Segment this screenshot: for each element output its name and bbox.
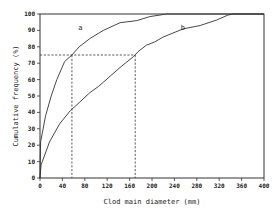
plot-frame: [40, 14, 264, 178]
y-axis-label: Cumulative frequency (%): [12, 45, 20, 146]
y-tick-label: 90: [28, 26, 36, 33]
curve-label-b: b: [181, 24, 185, 32]
y-tick-label: 30: [28, 125, 36, 132]
x-tick-label: 400: [259, 182, 270, 189]
x-tick-label: 320: [214, 182, 225, 189]
x-tick-label: 120: [102, 182, 113, 189]
x-tick-label: 360: [236, 182, 247, 189]
curve-label-a: a: [78, 24, 82, 32]
curve-b: [40, 14, 264, 178]
x-tick-label: 280: [191, 182, 202, 189]
x-axis-label: Clod main diameter (mm): [104, 198, 201, 206]
y-tick-label: 80: [28, 43, 36, 50]
y-tick-label: 40: [28, 108, 36, 115]
x-tick-label: 160: [124, 182, 135, 189]
y-tick-label: 70: [28, 59, 36, 66]
y-tick-label: 60: [28, 76, 36, 83]
x-tick-label: 200: [147, 182, 158, 189]
y-tick-label: 10: [28, 158, 36, 165]
curve-a: [40, 14, 264, 178]
cumulative-frequency-chart: 0102030405060708090100040801201602002402…: [0, 0, 278, 212]
x-tick-label: 40: [59, 182, 67, 189]
x-tick-label: 240: [169, 182, 180, 189]
y-tick-label: 100: [24, 10, 35, 17]
y-tick-label: 50: [28, 92, 36, 99]
x-tick-label: 80: [81, 182, 89, 189]
plot-area: 0102030405060708090100040801201602002402…: [24, 10, 270, 189]
x-tick-label: 0: [38, 182, 42, 189]
y-tick-label: 20: [28, 141, 36, 148]
y-tick-label: 0: [31, 174, 35, 181]
